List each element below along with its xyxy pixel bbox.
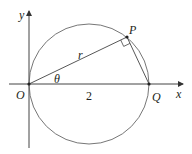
point-o — [27, 82, 30, 85]
point-q — [147, 82, 150, 85]
segment-pq — [127, 37, 149, 84]
polar-circle-diagram: y x O P Q r θ 2 — [0, 0, 192, 154]
origin-label: O — [16, 88, 25, 102]
y-axis-label: y — [18, 8, 25, 22]
diameter-length-label: 2 — [86, 89, 92, 103]
point-q-label: Q — [152, 90, 161, 104]
angle-theta-label: θ — [54, 72, 60, 86]
radius-label: r — [78, 48, 83, 62]
point-p-label: P — [128, 23, 137, 37]
x-axis-label: x — [175, 87, 182, 101]
